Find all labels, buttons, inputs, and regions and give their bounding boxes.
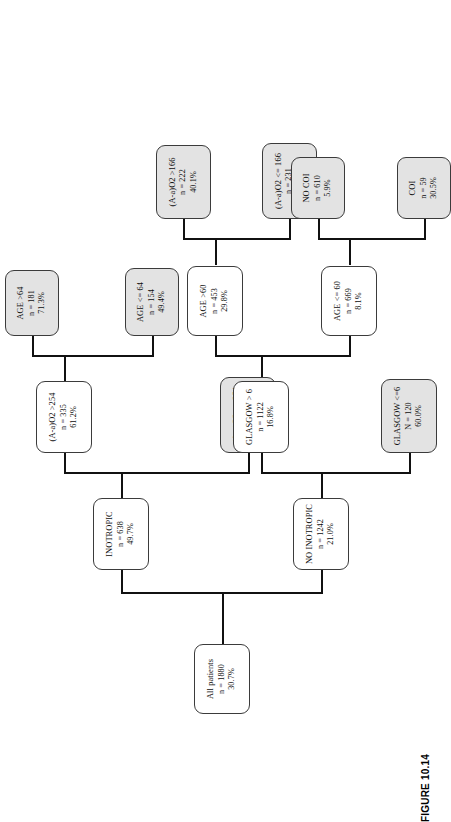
node-count: n = 669 [344,288,355,314]
edge-bus-to-glasgow-le-6 [409,452,411,474]
node-percent: 49.4% [157,291,168,313]
node-count: n = 1880 [217,664,228,694]
node-count: n = 638 [116,521,127,547]
node-count: n = 610 [313,175,324,201]
node-percent: 21.0% [326,523,337,545]
edge-inotropic-to-bus [121,473,123,499]
edge-bus-to-age-gt-64 [32,335,34,357]
node-title: (A-a)O2 <= 166 [274,153,285,209]
node-count: n = 453 [210,288,221,314]
node-percent: 30.5% [429,177,440,199]
node-age-gt-60[interactable]: AGE >60 n = 453 29.8% [187,266,243,336]
node-percent: 30.7% [227,668,238,690]
node-percent: 29.8% [220,290,231,312]
edge-bus-level1 [121,592,323,594]
edge-bus-to-coi [424,218,426,240]
edge-root-to-bus [222,593,224,645]
node-title: (A-a)O2 >254 [48,393,59,442]
node-percent: 60.0% [414,405,425,427]
node-count: n = 1122 [256,402,267,432]
edge-bus-to-aao2-gt-166 [183,218,185,240]
edge-bus-to-inotropic [121,569,123,594]
node-glasgow-le-6[interactable]: GLASGOW <=6 N = 120 60.0% [381,379,437,453]
node-age-le-60[interactable]: AGE <= 60 n = 669 8.1% [321,266,377,336]
node-coi[interactable]: COI n = 59 30.5% [397,157,451,219]
node-title: NO COI [302,173,313,202]
edge-bus-inotropic-children [64,472,250,474]
node-title: COI [408,181,419,196]
edge-bus-aao2-166-children [183,238,291,240]
node-title: GLASGOW > 6 [245,389,256,445]
node-count: n = 222 [178,169,189,195]
edge-no-inotropic-to-bus [321,473,323,499]
node-percent: 16.8% [266,406,277,428]
node-title: GLASGOW <=6 [393,387,404,446]
edge-age-gt-60-to-bus [215,239,217,265]
node-aao2-gt-254[interactable]: (A-a)O2 >254 n = 335 61.2% [36,381,92,453]
node-all-patients[interactable]: All patients n = 1880 30.7% [194,644,250,714]
edge-aao2-254-to-bus [64,356,66,382]
node-title: AGE <= 64 [136,282,147,322]
node-glasgow-gt-6[interactable]: GLASGOW > 6 n = 1122 16.8% [233,381,289,453]
edge-bus-to-age-gt-60 [215,335,217,357]
node-count: n = 154 [147,289,158,315]
node-percent: 61.2% [69,406,80,428]
node-count: n = 1242 [316,519,327,549]
edge-bus-to-no-inotropic [321,569,323,594]
edge-bus-glasgow-children [215,355,351,357]
edge-bus-to-no-coi [318,218,320,240]
node-title: AGE >60 [199,284,210,317]
node-count: N = 120 [404,402,415,430]
edge-age-le-60-to-bus [349,239,351,265]
edge-bus-age64-children [32,355,154,357]
node-no-coi[interactable]: NO COI n = 610 5.9% [291,157,345,219]
node-count: n = 59 [419,177,430,199]
node-title: (A-a)O2 >166 [168,158,179,207]
node-age-gt-64[interactable]: AGE >64 n = 181 71.3% [5,270,59,336]
node-title: AGE >64 [16,286,27,319]
edge-bus-to-glasgow-gt-6 [261,452,263,474]
node-title: NO INOTROPIC [305,504,316,564]
edge-bus-to-age-le-64 [152,335,154,357]
figure-caption: FIGURE 10.14 [420,754,431,822]
node-count: n = 181 [27,290,38,316]
node-count: n = 335 [59,404,70,430]
edge-bus-to-aao2-gt-254 [64,452,66,474]
node-percent: 5.9% [323,179,334,196]
edge-bus-to-age-le-60 [349,335,351,357]
node-title: AGE <= 60 [333,281,344,321]
edge-bus-no-inotropic-children [261,472,411,474]
node-age-le-64[interactable]: AGE <= 64 n = 154 49.4% [125,268,179,336]
node-no-inotropic[interactable]: NO INOTROPIC n = 1242 21.0% [293,498,349,570]
node-aao2-gt-166[interactable]: (A-a)O2 >166 n = 222 40.1% [156,145,211,219]
node-percent: 49.7% [126,523,137,545]
edge-bus-coi-children [318,238,426,240]
node-title: INOTROPIC [105,511,116,557]
node-percent: 71.3% [37,292,48,314]
node-title: All patients [206,659,217,699]
edge-bus-to-aao2-le-254 [248,452,250,474]
node-percent: 8.1% [354,292,365,309]
node-inotropic[interactable]: INOTROPIC n = 638 49.7% [93,498,149,570]
node-percent: 40.1% [189,171,200,193]
edge-bus-to-aao2-le-166 [289,218,291,240]
